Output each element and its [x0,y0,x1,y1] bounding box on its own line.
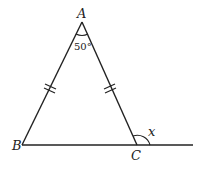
angle-label-a: 50° [74,41,92,52]
triangle-diagram: A B C 50° x [0,0,203,171]
vertex-label-b: B [11,138,22,153]
angle-label-x: x [148,124,156,139]
angle-arc-a [76,34,88,35]
side-ab [22,22,82,145]
vertex-label-c: C [131,148,141,163]
vertex-label-a: A [76,6,86,21]
